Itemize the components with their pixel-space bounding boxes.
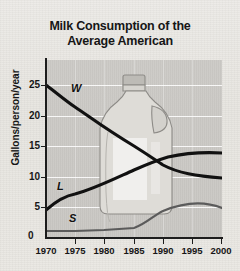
x-tick-1995 (192, 239, 193, 244)
chart-title-line-1: Milk Consumption of the (49, 19, 190, 33)
y-tick-label-5: 5 (14, 201, 40, 212)
chart-title: Milk Consumption of the Average American (14, 19, 226, 49)
y-tick-label-0: 0 (28, 230, 34, 241)
chart-figure: Milk Consumption of the Average American (0, 0, 240, 271)
x-tick-label-1985: 1985 (119, 245, 149, 256)
series-label-w: W (71, 82, 81, 94)
x-tick-1975 (75, 239, 76, 244)
x-tick-label-1980: 1980 (89, 245, 119, 256)
x-tick-label-1990: 1990 (148, 245, 178, 256)
y-tick-25 (41, 85, 46, 86)
x-tick-1980 (104, 239, 105, 244)
series-label-l: L (57, 180, 64, 192)
y-axis-title: Gallons/person/year (10, 58, 21, 178)
x-tick-label-1995: 1995 (177, 245, 207, 256)
x-tick-label-2000: 2000 (206, 245, 236, 256)
x-tick-1985 (134, 239, 135, 244)
series-label-s: S (69, 212, 76, 224)
x-tick-label-1975: 1975 (60, 245, 90, 256)
y-tick-15 (41, 146, 46, 147)
y-tick-20 (41, 116, 46, 117)
series-line-w (46, 85, 222, 178)
plot-area: W L S (46, 60, 222, 237)
y-tick-5 (41, 207, 46, 208)
x-tick-1990 (163, 239, 164, 244)
x-tick-2000 (221, 239, 222, 244)
y-tick-10 (41, 177, 46, 178)
x-tick-label-1970: 1970 (31, 245, 61, 256)
chart-title-line-2: Average American (14, 34, 226, 49)
series-line-l (46, 153, 222, 210)
